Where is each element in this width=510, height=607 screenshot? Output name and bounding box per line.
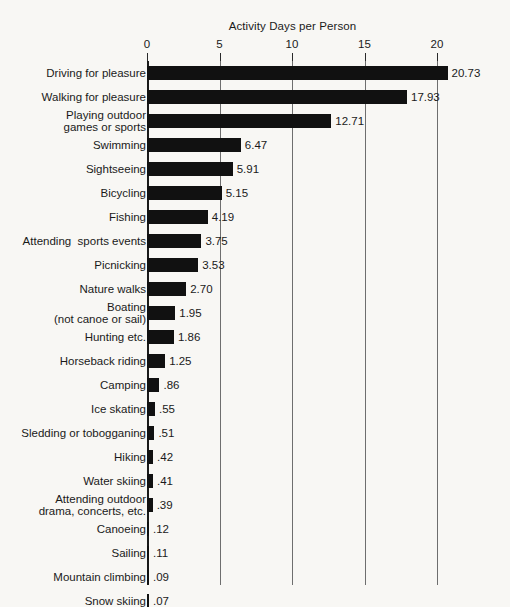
bar-row: Walking for pleasure17.93 <box>0 85 510 109</box>
bar-row: Water skiing.41 <box>0 469 510 493</box>
bar <box>147 354 165 368</box>
bar-category-label: Attending outdoordrama, concerts, etc. <box>0 493 146 517</box>
bar <box>147 210 208 224</box>
x-axis-tick-labels: 05101520 <box>0 38 510 52</box>
bar-category-label: Walking for pleasure <box>0 85 146 109</box>
bar-row: Snow skiing.07 <box>0 589 510 607</box>
bar-row: Sightseeing5.91 <box>0 157 510 181</box>
bar-value-label: 1.95 <box>179 301 201 325</box>
bar-row: Mountain climbing.09 <box>0 565 510 589</box>
x-axis-tick-label: 0 <box>144 38 150 50</box>
bar-value-label: 6.47 <box>245 133 267 157</box>
bar-row: Bicycling5.15 <box>0 181 510 205</box>
bar-row: Swimming6.47 <box>0 133 510 157</box>
bar-category-label: Canoeing <box>0 517 146 541</box>
bar <box>147 450 153 464</box>
bar-value-label: .07 <box>153 589 169 607</box>
chart-page: Activity Days per Person 05101520 Drivin… <box>0 0 510 607</box>
bar-category-label: Mountain climbing <box>0 565 146 589</box>
bar <box>147 330 174 344</box>
bar-value-label: .42 <box>157 445 173 469</box>
bar-row: Playing outdoorgames or sports12.71 <box>0 109 510 133</box>
bar-value-label: 20.73 <box>452 61 481 85</box>
bar-value-label: 3.53 <box>202 253 224 277</box>
bar-value-label: .41 <box>157 469 173 493</box>
bar-category-label: Playing outdoorgames or sports <box>0 109 146 133</box>
bar-category-label: Camping <box>0 373 146 397</box>
bar-category-label: Sailing <box>0 541 146 565</box>
bar-category-label: Swimming <box>0 133 146 157</box>
bar <box>147 90 407 104</box>
x-axis-tick-label: 5 <box>216 38 222 50</box>
bar-value-label: 1.86 <box>178 325 200 349</box>
bar-value-label: 5.15 <box>226 181 248 205</box>
x-axis-tick-mark <box>292 53 293 61</box>
bar-value-label: .11 <box>153 541 168 565</box>
bar-row: Boating(not canoe or sail)1.95 <box>0 301 510 325</box>
bar-category-label: Ice skating <box>0 397 146 421</box>
bar-value-label: 2.70 <box>190 277 212 301</box>
bar-value-label: 5.91 <box>237 157 259 181</box>
bar-row: Attending outdoordrama, concerts, etc..3… <box>0 493 510 517</box>
bar-value-label: 4.19 <box>212 205 234 229</box>
bar-row: Ice skating.55 <box>0 397 510 421</box>
bar-row: Hunting etc.1.86 <box>0 325 510 349</box>
bar <box>147 234 201 248</box>
bar-row: Hiking.42 <box>0 445 510 469</box>
bar-row: Fishing4.19 <box>0 205 510 229</box>
bar-value-label: 1.25 <box>169 349 191 373</box>
x-axis-tick-label: 15 <box>358 38 371 50</box>
bar <box>147 522 149 536</box>
x-axis-tick-mark <box>147 53 148 61</box>
bar-category-label: Water skiing <box>0 469 146 493</box>
bar-row: Camping.86 <box>0 373 510 397</box>
bar <box>147 282 186 296</box>
bar-row: Sailing.11 <box>0 541 510 565</box>
x-axis-tick-mark <box>365 53 366 61</box>
bar <box>147 570 149 584</box>
bar-category-label: Driving for pleasure <box>0 61 146 85</box>
x-axis-tick-mark <box>437 53 438 61</box>
bar-value-label: .39 <box>157 493 173 517</box>
bar-value-label: 3.75 <box>205 229 227 253</box>
bar-category-label: Hiking <box>0 445 146 469</box>
x-axis-tick-mark <box>220 53 221 61</box>
bar-row: Sledding or tobogganing.51 <box>0 421 510 445</box>
bar <box>147 594 149 607</box>
bar-category-label: Picnicking <box>0 253 146 277</box>
bar <box>147 114 331 128</box>
bar-category-label: Boating(not canoe or sail) <box>0 301 146 325</box>
bar-category-label: Nature walks <box>0 277 146 301</box>
bar-value-label: .55 <box>159 397 175 421</box>
plot-area: Driving for pleasure20.73Walking for ple… <box>0 61 510 591</box>
x-axis-tick-label: 10 <box>286 38 299 50</box>
bar-row: Horseback riding1.25 <box>0 349 510 373</box>
bar <box>147 258 198 272</box>
bar-value-label: 17.93 <box>411 85 440 109</box>
bar-value-label: .09 <box>153 565 169 589</box>
x-axis-tick-label: 20 <box>431 38 444 50</box>
bar-row: Picnicking3.53 <box>0 253 510 277</box>
bar-row: Driving for pleasure20.73 <box>0 61 510 85</box>
bar-value-label: 12.71 <box>335 109 364 133</box>
bar-row: Nature walks2.70 <box>0 277 510 301</box>
bar-value-label: .51 <box>158 421 174 445</box>
bar <box>147 378 159 392</box>
bar <box>147 138 241 152</box>
bar <box>147 402 155 416</box>
bar <box>147 186 222 200</box>
bar-category-label: Hunting etc. <box>0 325 146 349</box>
bar-category-label: Sledding or tobogganing <box>0 421 146 445</box>
bar-category-label: Sightseeing <box>0 157 146 181</box>
bar-row: Attending sports events3.75 <box>0 229 510 253</box>
chart-title: Activity Days per Person <box>147 20 438 32</box>
bar <box>147 546 149 560</box>
bar-category-label: Fishing <box>0 205 146 229</box>
bar-category-label: Horseback riding <box>0 349 146 373</box>
bar-category-label: Attending sports events <box>0 229 146 253</box>
bar-row: Canoeing.12 <box>0 517 510 541</box>
bar <box>147 498 153 512</box>
bar <box>147 66 448 80</box>
bar <box>147 474 153 488</box>
bar-value-label: .12 <box>153 517 169 541</box>
